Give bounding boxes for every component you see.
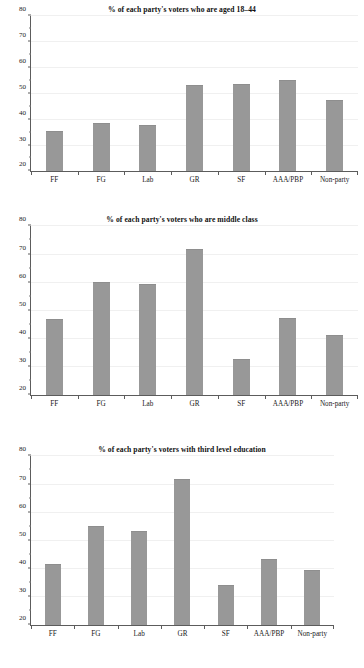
x-tick-mark — [118, 625, 119, 629]
x-tick-slot — [265, 395, 312, 399]
x-axis-ticks-education — [31, 625, 334, 629]
x-tick-mark — [218, 395, 219, 399]
bar-series-middle-class — [31, 226, 358, 395]
x-axis-label: AAA/PBP — [247, 631, 290, 638]
bar-aaa-pbp — [279, 80, 296, 171]
x-tick-mark — [161, 625, 162, 629]
bar-slot — [31, 226, 78, 395]
x-axis-labels-education: FFFGLabGRSFAAA/PBPNon-party — [31, 631, 334, 638]
y-tick-label: 70 — [19, 474, 26, 481]
x-tick-mark — [311, 395, 312, 399]
x-axis-label: GR — [171, 177, 218, 184]
x-tick-mark — [74, 625, 75, 629]
x-tick-mark — [78, 395, 79, 399]
x-tick-mark — [171, 171, 172, 175]
bar-slot — [265, 226, 312, 395]
y-tick-label: 40 — [19, 329, 26, 336]
bar-non-party — [304, 570, 320, 625]
bar-series-education — [31, 456, 334, 625]
y-tick-label: 20 — [19, 385, 26, 392]
bar-slot — [247, 456, 290, 625]
x-tick-slot — [74, 625, 117, 629]
x-tick-mark — [311, 171, 312, 175]
bar-slot — [291, 456, 334, 625]
bar-gr — [186, 85, 203, 172]
x-axis-labels-age: FFFGLabGRSFAAA/PBPNon-party — [31, 177, 358, 184]
bar-gr — [174, 479, 190, 626]
bar-lab — [131, 531, 147, 625]
plot-wrapper-age: 20304050607080 FFFGLabGRSFAAA/PBPNon-par… — [30, 16, 358, 172]
x-tick-slot — [247, 625, 290, 629]
bar-series-age — [31, 16, 358, 171]
x-axis-label: GR — [171, 401, 218, 408]
x-tick-slot — [118, 625, 161, 629]
y-tick-label: 30 — [19, 587, 26, 594]
y-tick-label: 70 — [19, 244, 26, 251]
y-tick-label: 50 — [19, 530, 26, 537]
x-tick-mark — [357, 171, 358, 175]
bar-lab — [139, 125, 156, 171]
x-tick-slot — [171, 171, 218, 175]
chart-title-age: % of each party's voters who are aged 18… — [0, 0, 364, 16]
bar-sf — [233, 84, 250, 172]
bar-slot — [311, 16, 358, 171]
x-tick-mark — [357, 395, 358, 399]
bar-ff — [46, 319, 63, 395]
bar-non-party — [326, 335, 343, 396]
bar-slot — [118, 456, 161, 625]
bar-slot — [124, 16, 171, 171]
x-tick-slot — [218, 171, 265, 175]
y-tick-label: 80 — [19, 216, 26, 223]
x-tick-slot — [291, 625, 334, 629]
x-tick-mark — [218, 171, 219, 175]
bar-non-party — [326, 100, 343, 171]
x-tick-slot — [124, 171, 171, 175]
y-tick-label: 40 — [19, 109, 26, 116]
y-tick-label: 20 — [19, 615, 26, 622]
x-tick-mark — [31, 171, 32, 175]
x-tick-mark — [31, 625, 32, 629]
bar-fg — [93, 123, 110, 171]
bar-aaa-pbp — [261, 559, 277, 625]
bar-slot — [171, 226, 218, 395]
x-tick-mark — [265, 171, 266, 175]
bar-slot — [78, 226, 125, 395]
plot-area-age: 20304050607080 FFFGLabGRSFAAA/PBPNon-par… — [30, 16, 358, 172]
x-axis-label: GR — [161, 631, 204, 638]
y-tick-label: 20 — [19, 161, 26, 168]
x-tick-slot — [124, 395, 171, 399]
x-tick-slot — [78, 395, 125, 399]
x-tick-mark — [333, 625, 334, 629]
plot-area-middle-class: 20304050607080 FFFGLabGRSFAAA/PBPNon-par… — [30, 226, 358, 396]
y-tick-label: 50 — [19, 300, 26, 307]
bar-slot — [204, 456, 247, 625]
bar-slot — [218, 226, 265, 395]
x-axis-ticks-age — [31, 171, 358, 175]
bar-fg — [93, 282, 110, 395]
x-tick-mark — [265, 395, 266, 399]
x-tick-mark — [171, 395, 172, 399]
x-axis-label: FF — [31, 631, 74, 638]
chart-panel-education: % of each party's voters with third leve… — [0, 438, 364, 668]
bar-ff — [45, 564, 61, 625]
bar-gr — [186, 249, 203, 395]
x-axis-label: FG — [74, 631, 117, 638]
x-axis-label: AAA/PBP — [265, 401, 312, 408]
y-tick-label: 60 — [19, 272, 26, 279]
x-tick-mark — [124, 395, 125, 399]
x-tick-mark — [291, 625, 292, 629]
x-axis-labels-middle-class: FFFGLabGRSFAAA/PBPNon-party — [31, 401, 358, 408]
x-axis-label: SF — [218, 401, 265, 408]
plot-area-education: 20304050607080 FFFGLabGRSFAAA/PBPNon-par… — [30, 456, 334, 626]
bar-slot — [311, 226, 358, 395]
x-tick-slot — [218, 395, 265, 399]
y-tick-label: 60 — [19, 58, 26, 65]
x-tick-slot — [78, 171, 125, 175]
bar-lab — [139, 284, 156, 395]
y-tick-label: 30 — [19, 135, 26, 142]
plot-wrapper-education: 20304050607080 FFFGLabGRSFAAA/PBPNon-par… — [30, 456, 334, 626]
x-axis-label: Lab — [118, 631, 161, 638]
x-tick-slot — [311, 171, 358, 175]
bar-slot — [218, 16, 265, 171]
x-tick-slot — [204, 625, 247, 629]
